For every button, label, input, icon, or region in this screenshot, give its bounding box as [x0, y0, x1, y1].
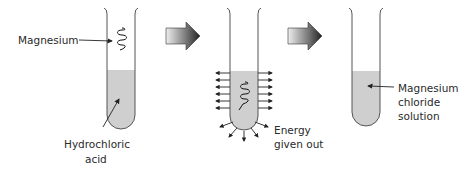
reaction-diagram: Magnesium Hydrochloric acid Energy given… — [0, 0, 474, 172]
test-tube-reacting — [227, 8, 261, 130]
product-label-line3: solution — [398, 110, 440, 122]
energy-label-line1: Energy — [274, 124, 311, 136]
energy-arrow — [251, 128, 258, 137]
product-label-line1: Magnesium — [398, 82, 459, 94]
tube-liquid — [107, 70, 135, 129]
energy-arrow — [220, 122, 233, 127]
process-arrow-2 — [288, 22, 322, 50]
energy-arrow — [255, 122, 268, 127]
tube-liquid — [352, 71, 380, 126]
acid-label-line1: Hydrochloric — [64, 138, 130, 150]
process-arrow-1 — [166, 22, 200, 50]
product-label-line2: chloride — [398, 96, 440, 108]
energy-label-line2: given out — [274, 138, 323, 150]
magnesium-ribbon-icon — [118, 28, 127, 50]
energy-arrow — [229, 128, 237, 137]
acid-label-line2: acid — [85, 153, 107, 165]
test-tube-before — [104, 8, 138, 129]
tube-liquid — [230, 71, 258, 130]
test-tube-after — [349, 8, 383, 126]
magnesium-label: Magnesium — [18, 34, 79, 46]
